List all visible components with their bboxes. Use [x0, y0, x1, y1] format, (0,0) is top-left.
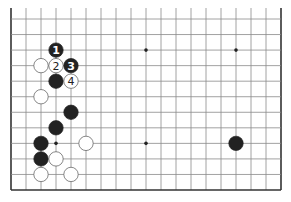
black-stone-icon [49, 74, 63, 88]
move-number-label: 4 [68, 75, 75, 88]
white-stone-icon [34, 167, 48, 181]
black-stone [49, 74, 63, 88]
white-stone [34, 58, 48, 72]
black-stone-move-3: 3 [64, 58, 78, 72]
move-number-label: 2 [53, 60, 60, 73]
move-number-label: 3 [67, 60, 75, 73]
star-point-icon [144, 142, 148, 146]
go-board-diagram: 1234 [0, 0, 291, 202]
white-stone-move-2: 2 [49, 58, 63, 72]
black-stone-move-1: 1 [49, 43, 63, 57]
white-stone-icon [34, 90, 48, 104]
white-stone-icon [34, 58, 48, 72]
star-point-icon [54, 142, 58, 146]
black-stone [229, 136, 243, 150]
black-stone-icon [49, 121, 63, 135]
move-number-label: 1 [52, 44, 60, 57]
white-stone-icon [64, 167, 78, 181]
white-stone [49, 152, 63, 166]
white-stone-move-4: 4 [64, 74, 78, 88]
white-stone [64, 167, 78, 181]
black-stone-icon [64, 105, 78, 119]
white-stone-icon [49, 152, 63, 166]
star-point-icon [234, 48, 238, 52]
black-stone-icon [34, 152, 48, 166]
white-stone [34, 167, 48, 181]
black-stone [49, 121, 63, 135]
white-stone [79, 136, 93, 150]
star-point-icon [144, 48, 148, 52]
black-stone [34, 136, 48, 150]
black-stone-icon [34, 136, 48, 150]
black-stone [34, 152, 48, 166]
white-stone-icon [79, 136, 93, 150]
black-stone [64, 105, 78, 119]
black-stone-icon [229, 136, 243, 150]
white-stone [34, 90, 48, 104]
